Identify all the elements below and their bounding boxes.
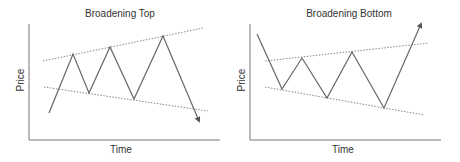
y-axis-label: Price <box>236 68 247 91</box>
upper-trendline <box>43 28 203 61</box>
x-axis-label: Time <box>332 144 354 155</box>
x-axis-label: Time <box>110 144 132 155</box>
broadening-bottom-chart: Broadening Bottom Time Price <box>236 8 441 155</box>
chart-title: Broadening Bottom <box>306 8 392 19</box>
broadening-top-chart: Broadening Top Time Price <box>15 8 220 155</box>
lower-trendline <box>44 87 208 111</box>
chart-title: Broadening Top <box>85 8 155 19</box>
y-axis-label: Price <box>15 68 26 91</box>
price-path <box>49 36 199 121</box>
lower-trendline <box>265 87 424 115</box>
broadening-patterns-diagram: Broadening Top Time Price Broadening Bot… <box>0 0 460 162</box>
price-path <box>257 24 421 108</box>
upper-trendline <box>265 43 429 61</box>
